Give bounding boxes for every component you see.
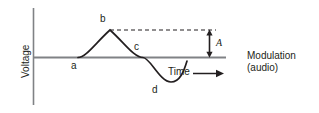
modulation-annotation: Modulation (audio)	[247, 50, 296, 73]
modulation-annotation-line1: Modulation	[247, 50, 296, 61]
modulation-annotation-line2: (audio)	[247, 62, 296, 74]
amplitude-label: A	[216, 37, 222, 49]
time-axis-label: Time	[168, 66, 190, 78]
waveform-diagram: Voltage a b c d Time A Modulation (audio…	[0, 0, 319, 113]
point-label-a: a	[71, 60, 77, 72]
amplitude-double-arrow	[206, 30, 212, 58]
voltage-axis-label: Voltage	[20, 45, 32, 78]
point-label-d: d	[152, 84, 158, 96]
point-label-c: c	[134, 41, 139, 53]
time-arrow	[193, 70, 224, 77]
point-label-b: b	[100, 13, 106, 25]
